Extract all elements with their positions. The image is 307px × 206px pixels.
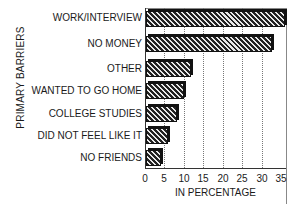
x-tick-label: 0 — [142, 173, 148, 184]
bar-work-interview — [146, 11, 285, 27]
bar-no-friends — [146, 150, 161, 166]
y-axis-label: PRIMARY BARRIERS — [15, 18, 26, 138]
category-label: NO FRIENDS — [80, 152, 142, 163]
bar-did-not-feel-like-it — [146, 128, 168, 144]
x-axis-label: IN PERCENTAGE — [175, 187, 256, 198]
category-label: DID NOT FEEL LIKE IT — [38, 130, 142, 141]
bar-no-money — [146, 36, 272, 52]
category-label: NO MONEY — [88, 38, 142, 49]
gridline — [223, 8, 224, 168]
x-tick-label: 35 — [275, 173, 286, 184]
category-label: OTHER — [107, 63, 142, 74]
x-tick-label: 30 — [256, 173, 267, 184]
gridline — [242, 8, 243, 168]
plot-frame-top — [145, 8, 286, 9]
bar-wanted-to-go-home — [146, 83, 184, 99]
x-axis-line — [145, 168, 286, 169]
gridline — [262, 8, 263, 168]
category-label: WORK/INTERVIEW — [53, 12, 142, 23]
x-tick-label: 15 — [197, 173, 208, 184]
category-label: COLLEGE STUDIES — [49, 108, 142, 119]
x-tick-label: 10 — [178, 173, 189, 184]
x-tick-label: 20 — [217, 173, 228, 184]
bar-college-studies — [146, 106, 177, 122]
x-tick-label: 25 — [236, 173, 247, 184]
gridline — [184, 8, 185, 168]
category-label: WANTED TO GO HOME — [32, 85, 142, 96]
gridline — [203, 8, 204, 168]
x-tick-label: 5 — [161, 173, 167, 184]
bar-other — [146, 61, 191, 77]
